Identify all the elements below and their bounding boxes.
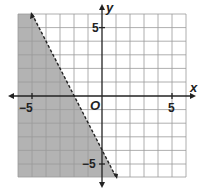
x-tick-label-5: 5: [168, 101, 175, 115]
y-tick-label-5: 5: [92, 21, 99, 35]
coordinate-plane: y x O −5 5 5 −5: [0, 0, 203, 192]
y-tick-label-neg5: −5: [82, 157, 96, 171]
x-tick-label-neg5: −5: [19, 101, 33, 115]
x-axis-label: x: [189, 80, 198, 95]
origin-label: O: [90, 98, 100, 113]
y-axis-label: y: [105, 0, 114, 15]
